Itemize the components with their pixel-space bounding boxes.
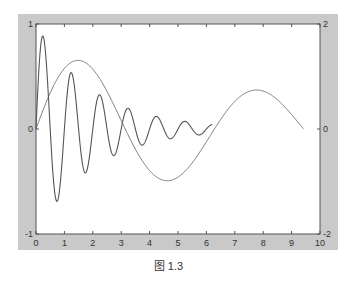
y-right-tick-label: 2 xyxy=(323,19,328,29)
y-left-tick-label: 0 xyxy=(28,124,33,134)
y-right-tick-label: -2 xyxy=(323,229,331,239)
x-tick-label: 0 xyxy=(33,238,38,248)
x-tick-label: 4 xyxy=(147,238,152,248)
x-tick-label: 1 xyxy=(62,238,67,248)
x-tick-label: 5 xyxy=(175,238,180,248)
x-tick-label: 8 xyxy=(261,238,266,248)
y-left-tick-label: -1 xyxy=(25,229,33,239)
x-tick-label: 3 xyxy=(119,238,124,248)
y-left-tick-label: 1 xyxy=(28,19,33,29)
x-tick-label: 7 xyxy=(232,238,237,248)
x-tick-label: 6 xyxy=(204,238,209,248)
figure-caption: 图 1.3 xyxy=(0,257,337,273)
x-tick-label: 2 xyxy=(90,238,95,248)
x-tick-label: 9 xyxy=(289,238,294,248)
chart-figure: 012345678910-101-202 xyxy=(0,0,353,285)
y-right-tick-label: 0 xyxy=(323,124,328,134)
x-tick-label: 10 xyxy=(315,238,325,248)
